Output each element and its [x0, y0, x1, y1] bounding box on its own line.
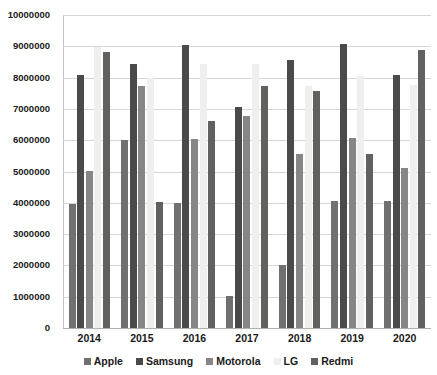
- bar-lg-2018: [305, 86, 312, 328]
- chart-title: [0, 0, 437, 4]
- y-axis-tick-label: 0: [0, 322, 50, 333]
- bar-motorola-2015: [138, 86, 145, 328]
- bar-samsung-2020: [393, 75, 400, 328]
- bar-motorola-2019: [349, 138, 356, 328]
- legend-label: Redmi: [321, 355, 353, 367]
- bar-apple-2017: [226, 296, 233, 328]
- bar-apple-2020: [384, 201, 391, 328]
- bar-redmi-2018: [313, 91, 320, 328]
- bar-lg-2014: [94, 47, 101, 328]
- legend-swatch-icon: [136, 358, 143, 365]
- legend-label: Motorola: [216, 355, 260, 367]
- bar-chart: 0100000020000003000000400000050000006000…: [0, 0, 437, 375]
- legend-swatch-icon: [311, 358, 318, 365]
- legend-swatch-icon: [84, 358, 91, 365]
- bar-redmi-2019: [366, 154, 373, 328]
- bar-motorola-2014: [86, 171, 93, 328]
- x-axis-tick-label-2015: 2015: [116, 332, 168, 344]
- chart-legend: AppleSamsungMotorolaLGRedmi: [0, 355, 437, 367]
- y-axis-tick-label: 2000000: [0, 259, 50, 270]
- bar-lg-2017: [252, 64, 259, 328]
- x-axis: 2014201520162017201820192020: [63, 332, 431, 350]
- legend-swatch-icon: [206, 358, 213, 365]
- legend-item-apple[interactable]: Apple: [84, 355, 123, 367]
- bar-samsung-2015: [130, 64, 137, 328]
- bar-motorola-2016: [191, 139, 198, 328]
- bar-apple-2016: [174, 203, 181, 328]
- bar-lg-2019: [357, 76, 364, 328]
- x-axis-tick-label-2016: 2016: [168, 332, 220, 344]
- y-axis-tick-label: 8000000: [0, 72, 50, 83]
- y-axis-tick-label: 9000000: [0, 40, 50, 51]
- legend-item-redmi[interactable]: Redmi: [311, 355, 353, 367]
- bar-redmi-2016: [208, 121, 215, 328]
- bar-samsung-2016: [182, 45, 189, 328]
- legend-label: LG: [284, 355, 299, 367]
- x-axis-tick-label-2020: 2020: [379, 332, 431, 344]
- bar-redmi-2017: [261, 86, 268, 328]
- gridline: [63, 328, 431, 329]
- bar-apple-2015: [121, 140, 128, 328]
- bar-group-2018: [273, 15, 326, 328]
- legend-swatch-icon: [274, 358, 281, 365]
- bar-group-2016: [168, 15, 221, 328]
- bar-samsung-2018: [287, 60, 294, 328]
- bar-lg-2015: [147, 78, 154, 328]
- legend-label: Apple: [94, 355, 123, 367]
- x-axis-tick-label-2017: 2017: [221, 332, 273, 344]
- y-axis-tick-label: 4000000: [0, 197, 50, 208]
- x-axis-tick-label-2019: 2019: [326, 332, 378, 344]
- legend-item-motorola[interactable]: Motorola: [206, 355, 260, 367]
- bar-samsung-2017: [235, 107, 242, 328]
- y-axis-tick-label: 5000000: [0, 166, 50, 177]
- bar-samsung-2014: [77, 75, 84, 328]
- y-axis-tick-label: 1000000: [0, 291, 50, 302]
- bar-motorola-2018: [296, 154, 303, 328]
- bar-lg-2016: [200, 64, 207, 328]
- x-axis-tick-label-2018: 2018: [274, 332, 326, 344]
- bar-redmi-2014: [103, 52, 110, 328]
- bar-motorola-2020: [401, 168, 408, 328]
- bar-redmi-2015: [156, 202, 163, 328]
- bar-motorola-2017: [243, 116, 250, 328]
- bar-group-2015: [116, 15, 169, 328]
- plot-area: 0100000020000003000000400000050000006000…: [63, 15, 431, 328]
- bar-group-2020: [378, 15, 431, 328]
- bar-group-2014: [63, 15, 116, 328]
- bar-group-2017: [221, 15, 274, 328]
- bar-apple-2018: [279, 265, 286, 328]
- x-axis-tick-label-2014: 2014: [63, 332, 115, 344]
- bar-apple-2014: [69, 204, 76, 328]
- y-axis-tick-label: 6000000: [0, 134, 50, 145]
- bar-group-2019: [326, 15, 379, 328]
- legend-item-samsung[interactable]: Samsung: [136, 355, 193, 367]
- legend-label: Samsung: [146, 355, 193, 367]
- bar-lg-2020: [410, 85, 417, 328]
- bar-apple-2019: [331, 201, 338, 328]
- y-axis-tick-label: 7000000: [0, 103, 50, 114]
- y-axis-tick-label: 10000000: [0, 9, 50, 20]
- bar-samsung-2019: [340, 44, 347, 328]
- bar-redmi-2020: [418, 50, 425, 328]
- y-axis-tick-label: 3000000: [0, 228, 50, 239]
- legend-item-lg[interactable]: LG: [274, 355, 299, 367]
